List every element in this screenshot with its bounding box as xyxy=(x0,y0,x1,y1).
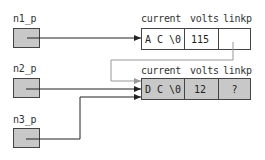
arrows-layer xyxy=(0,0,265,160)
arrow-node1-linkp-to-node2 xyxy=(111,42,233,81)
arrow-n3-to-node2 xyxy=(26,97,141,139)
